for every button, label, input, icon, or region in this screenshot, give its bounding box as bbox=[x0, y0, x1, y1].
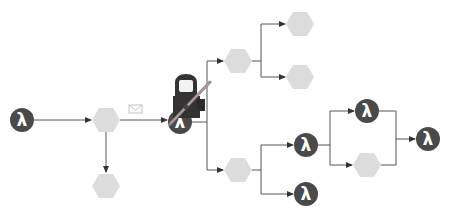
lambda-node-par-top[interactable]: λ bbox=[355, 99, 379, 123]
edge-merge bbox=[379, 111, 415, 165]
lambda-icon: λ bbox=[301, 135, 312, 155]
hex-node-a-down[interactable] bbox=[92, 174, 120, 198]
hex-node-lower[interactable] bbox=[224, 158, 252, 182]
lambda-icon: λ bbox=[362, 101, 373, 121]
lambda-node-mid[interactable]: λ bbox=[294, 133, 318, 157]
edge-lower-branch bbox=[252, 145, 261, 194]
hex-node-par-bottom[interactable] bbox=[353, 153, 381, 177]
lambda-node-start[interactable]: λ bbox=[10, 108, 34, 132]
hex-node-top-2[interactable] bbox=[286, 65, 314, 89]
lambda-icon: λ bbox=[301, 184, 312, 204]
lambda-node-end[interactable]: λ bbox=[416, 127, 440, 151]
hex-node-a[interactable] bbox=[92, 108, 120, 132]
workflow-diagram: λ λ λ λ λ λ bbox=[0, 0, 451, 217]
edge-upper-branch bbox=[252, 24, 261, 77]
lambda-icon: λ bbox=[423, 129, 434, 149]
lambda-nodes: λ λ λ λ λ λ bbox=[10, 99, 440, 206]
diagram-svg: λ λ λ λ λ λ bbox=[0, 0, 451, 217]
lambda-node-bottom[interactable]: λ bbox=[294, 182, 318, 206]
hex-node-upper[interactable] bbox=[224, 49, 252, 73]
edge-mid-branch bbox=[318, 111, 330, 165]
hooded-worker-with-pole-icon bbox=[170, 74, 210, 124]
envelope-icon bbox=[129, 105, 142, 113]
lambda-icon: λ bbox=[17, 110, 28, 130]
hex-node-top-1[interactable] bbox=[286, 12, 314, 36]
